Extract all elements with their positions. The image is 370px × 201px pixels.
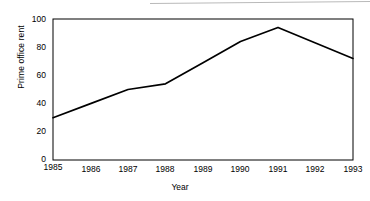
x-tick-label: 1993 — [336, 165, 370, 174]
y-axis-title: Prime office rent — [16, 2, 26, 112]
x-tick-label: 1990 — [223, 165, 257, 174]
x-tick-label: 1988 — [148, 165, 182, 174]
y-tick-label: 20 — [20, 127, 46, 136]
chart-figure: 0 20 40 60 80 100 1985 1986 1987 1988 19… — [0, 0, 370, 201]
x-axis-title: Year — [150, 182, 210, 192]
x-tick-label: 1991 — [261, 165, 295, 174]
x-tick-label: 1989 — [186, 165, 220, 174]
x-tick-label: 1987 — [111, 165, 145, 174]
x-tick-label: 1985 — [36, 163, 70, 172]
x-tick-label: 1992 — [298, 165, 332, 174]
x-tick-label: 1986 — [74, 165, 108, 174]
